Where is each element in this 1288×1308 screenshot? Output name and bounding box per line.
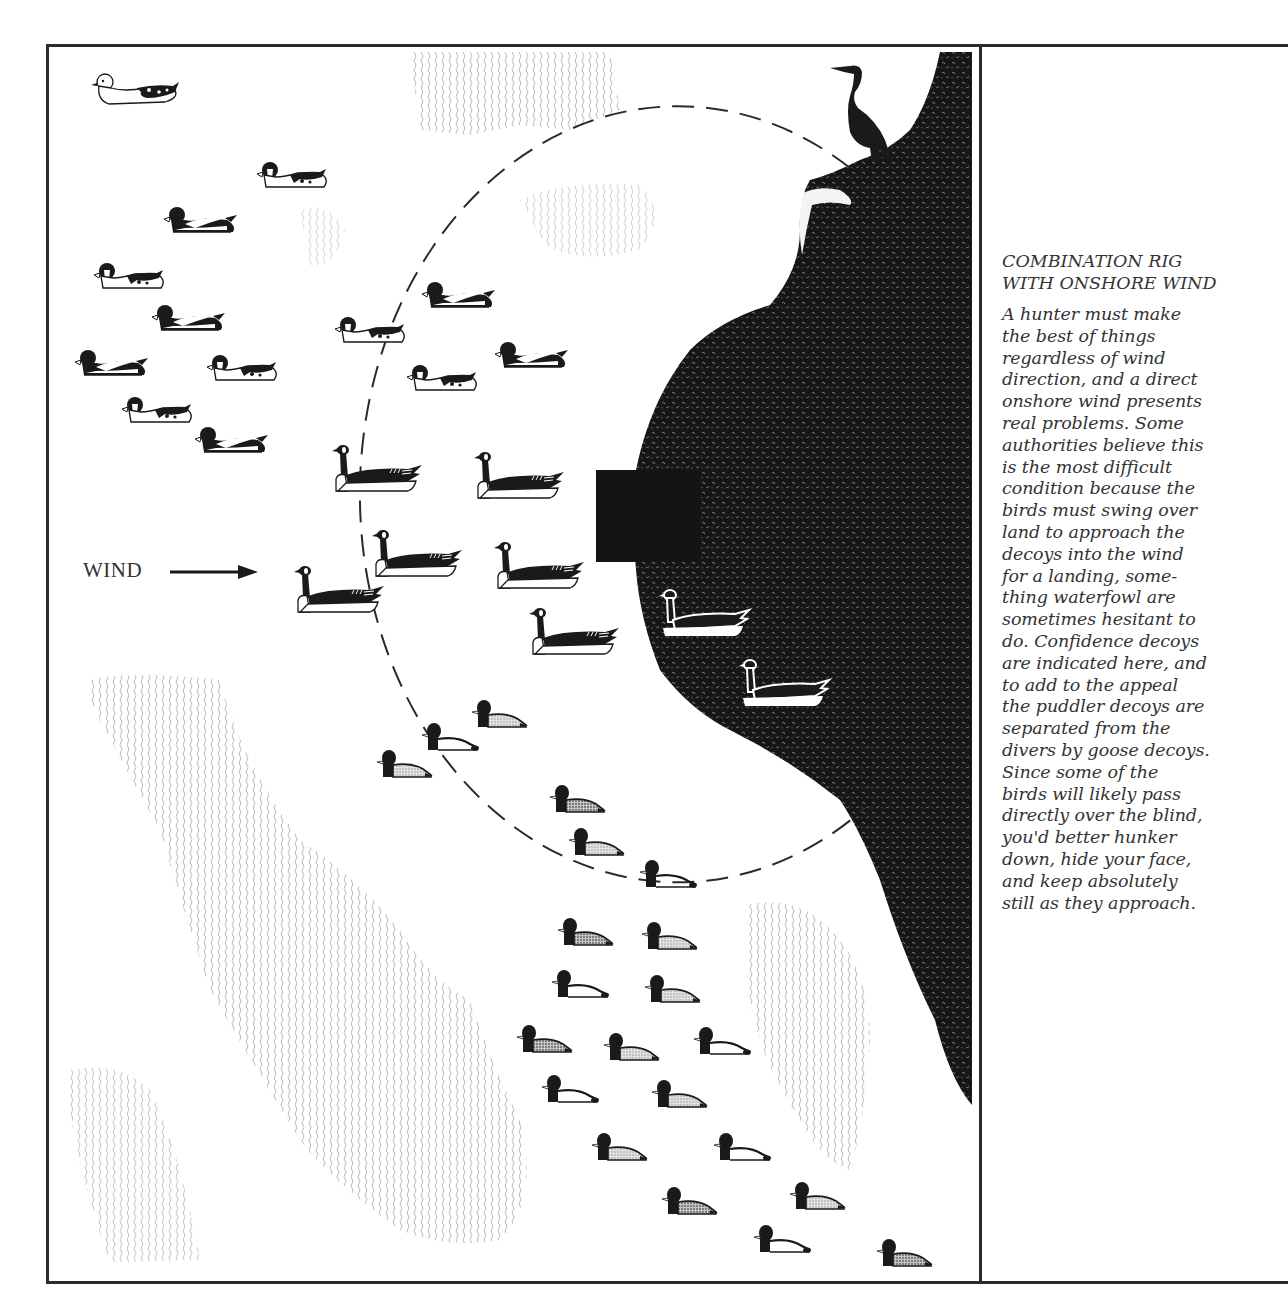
figure-caption: COMBINATION RIG WITH ONSHORE WIND A hunt… [1002, 250, 1288, 914]
caption-body: A hunter must make the best of things re… [1002, 304, 1288, 914]
wind-label: WIND [83, 558, 142, 583]
canada-goose-decoys [294, 445, 619, 654]
wind-arrow [170, 565, 258, 579]
hunting-blind [596, 470, 700, 562]
heron-confidence-decoy [830, 66, 894, 162]
mallard-decoys [75, 162, 568, 452]
caption-title: COMBINATION RIG WITH ONSHORE WIND [1002, 250, 1288, 294]
figure-divider [979, 44, 982, 1284]
decoy-diagram [49, 47, 979, 1281]
gull-confidence-decoy [91, 74, 179, 104]
